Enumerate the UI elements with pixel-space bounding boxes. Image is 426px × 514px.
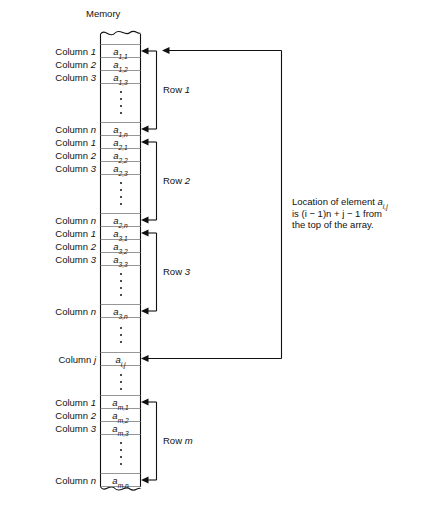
row-m-bracket	[141, 399, 157, 484]
row-index-2: 2	[185, 175, 190, 186]
memory-cell-a3-1: a3,1	[100, 228, 141, 239]
row-index-3: 3	[185, 266, 190, 277]
column-index-rmcn: n	[91, 475, 96, 486]
column-index-rmc2: 2	[91, 410, 96, 421]
memory-title: Memory	[86, 8, 120, 19]
memory-cell-am-3: am,3	[100, 423, 141, 434]
memory-cell-a1-3: a1,3	[100, 72, 141, 83]
memory-cell-a2-1: a2,1	[100, 137, 141, 148]
column-index-r2c1: 1	[91, 137, 96, 148]
column-label-rmc2: Column 2	[18, 410, 96, 421]
note-element-subscript: i,j	[383, 203, 388, 210]
row-index-m: m	[185, 435, 193, 446]
note-line-2: is (i − 1)n + j − 1 from	[292, 208, 382, 219]
memory-cell-a2-3: a2,3	[100, 163, 141, 174]
column-index-r3cn: n	[91, 306, 96, 317]
column-label-r2cn: Column n	[18, 215, 96, 226]
memory-cell-am-2: am,2	[100, 410, 141, 421]
column-index-rmc3: 3	[91, 423, 96, 434]
ellipsis-row-3	[100, 273, 141, 301]
column-index-r3c2: 2	[91, 241, 96, 252]
memory-array-diagram: Memory Column 1 Column 2 Column 3 Column…	[0, 0, 426, 514]
column-label-r3c1: Column 1	[18, 228, 96, 239]
row-index-1: 1	[185, 84, 190, 95]
memory-cell-am-n: am,n	[100, 475, 141, 486]
ellipsis-row-m	[100, 442, 141, 470]
row-label-1: Row 1	[163, 84, 190, 95]
column-index-r1c3: 3	[91, 72, 96, 83]
row-3-bracket	[141, 230, 157, 315]
column-index-r3c3: 3	[91, 254, 96, 265]
ellipsis-row-2	[100, 182, 141, 210]
column-label-r1c3: Column 3	[18, 72, 96, 83]
column-index-r1cn: n	[91, 124, 96, 135]
column-label-rij: Column j	[18, 354, 96, 365]
memory-cell-a3-2: a3,2	[100, 241, 141, 252]
column-label-r2c1: Column 1	[18, 137, 96, 148]
row-label-3: Row 3	[163, 266, 190, 277]
column-label-r1c1: Column 1	[18, 46, 96, 57]
row-label-m: Row m	[163, 435, 193, 446]
row-2-bracket	[141, 139, 157, 224]
note-line-1: Location of element	[292, 196, 378, 207]
ellipsis-before-aij	[100, 327, 141, 348]
ellipsis-row-1	[100, 91, 141, 119]
column-index-rij: j	[94, 354, 96, 365]
column-label-r3c2: Column 2	[18, 241, 96, 252]
memory-cell-a3-n: a3,n	[100, 306, 141, 317]
column-index-r1c2: 2	[91, 59, 96, 70]
column-index-r3c1: 1	[91, 228, 96, 239]
element-location-note: Location of element ai,j is (i − 1)n + j…	[292, 196, 416, 231]
ellipsis-after-aij	[100, 374, 141, 395]
memory-cell-a1-n: a1,n	[100, 124, 141, 135]
memory-cell-a1-2: a1,2	[100, 59, 141, 70]
column-label-rmc1: Column 1	[18, 397, 96, 408]
memory-cell-am-1: am,1	[100, 397, 141, 408]
column-index-r2c2: 2	[91, 150, 96, 161]
column-index-r1c1: 1	[91, 46, 96, 57]
column-label-r2c2: Column 2	[18, 150, 96, 161]
column-index-rmc1: 1	[91, 397, 96, 408]
column-label-r2c3: Column 3	[18, 163, 96, 174]
memory-top-torn-edge	[101, 31, 141, 35]
memory-cell-ai-j: ai,j	[100, 354, 141, 365]
row-1-bracket	[141, 48, 157, 133]
note-line-3: the top of the array.	[292, 219, 374, 230]
memory-cell-a2-2: a2,2	[100, 150, 141, 161]
memory-cell-a1-1: a1,1	[100, 46, 141, 57]
column-label-r3cn: Column n	[18, 306, 96, 317]
column-label-r1cn: Column n	[18, 124, 96, 135]
memory-cell-a2-n: a2,n	[100, 215, 141, 226]
row-label-2: Row 2	[163, 175, 190, 186]
column-label-r3c3: Column 3	[18, 254, 96, 265]
memory-cell-a3-3: a3,3	[100, 254, 141, 265]
column-index-r2c3: 3	[91, 163, 96, 174]
column-index-r2cn: n	[91, 215, 96, 226]
column-label-rmcn: Column n	[18, 475, 96, 486]
column-label-r1c2: Column 2	[18, 59, 96, 70]
column-label-rmc3: Column 3	[18, 423, 96, 434]
